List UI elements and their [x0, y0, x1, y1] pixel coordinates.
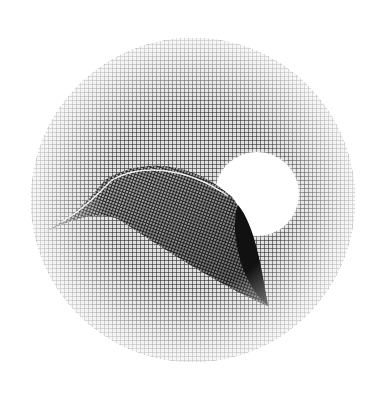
- hatched-artwork: [0, 0, 387, 401]
